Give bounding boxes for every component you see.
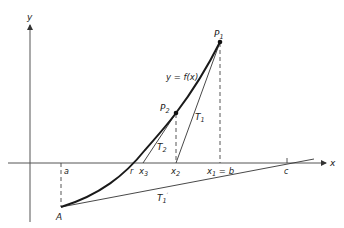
point-P2 <box>174 111 179 116</box>
label-r: r <box>130 167 134 176</box>
label-c: c <box>284 167 289 176</box>
label-P2: P2 <box>160 103 170 115</box>
y-axis-label: y <box>26 12 33 22</box>
label-T1: T1 <box>195 112 205 124</box>
label-x1-b: x1 = b <box>206 166 234 178</box>
label-T2: T2 <box>157 142 167 154</box>
label-x2: x2 <box>170 166 180 178</box>
label-curve: y = f(x) <box>165 72 198 82</box>
x-axis-label: x <box>329 158 336 168</box>
curve-f <box>61 42 220 207</box>
tangent-T1-prime <box>61 159 314 207</box>
newton-method-diagram: y x P1 P2 A y = f(x) T1 T2 T1′ a r x3 x2… <box>0 0 344 228</box>
label-A: A <box>55 212 62 222</box>
label-x3: x3 <box>138 166 148 178</box>
label-P1: P1 <box>214 29 224 41</box>
label-T1-prime: T1′ <box>157 191 169 205</box>
label-a: a <box>64 167 69 176</box>
